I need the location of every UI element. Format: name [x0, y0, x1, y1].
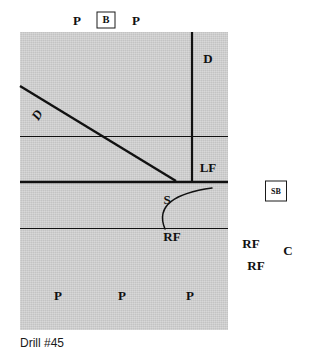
field-label-p-bottom-center: P [118, 289, 126, 302]
drill-diagram-canvas: P B P D D LF S RF P P P SB RF C RF Drill… [0, 0, 309, 358]
drill-caption: Drill #45 [20, 336, 64, 350]
field-label-p-bottom-left: P [54, 289, 62, 302]
field-label-rf-center: RF [163, 230, 180, 243]
side-label-rf-upper: RF [242, 237, 259, 250]
boxed-label-sb: SB [265, 181, 287, 202]
field-label-p-bottom-right: P [186, 289, 194, 302]
side-label-c: C [283, 244, 292, 257]
field-label-d-top-right: D [203, 52, 212, 65]
field-label-s: S [163, 193, 170, 206]
top-label-p-right: P [132, 14, 140, 27]
playing-field [20, 32, 228, 330]
top-label-p-left: P [73, 14, 81, 27]
field-label-lf: LF [200, 161, 217, 174]
boxed-label-b: B [97, 12, 116, 29]
side-label-rf-lower: RF [247, 259, 264, 272]
